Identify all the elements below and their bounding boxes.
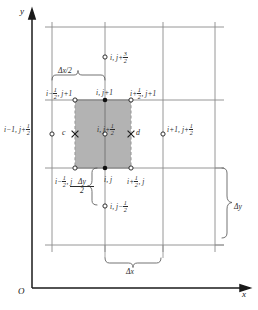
node-label-iplushalf-j-suffix: , j	[138, 177, 144, 186]
brace-dy	[222, 168, 232, 238]
node-label-i-jplushalf: i, j+12	[97, 122, 115, 136]
dimension-dy-half-denominator: 2	[70, 186, 94, 195]
node-marker-i-jplus3half	[103, 55, 107, 59]
fraction-denominator: 2	[53, 93, 57, 100]
y-axis-arrowhead	[29, 9, 35, 19]
fraction-numerator: 1	[26, 123, 30, 129]
fraction-numerator: 1	[134, 175, 138, 181]
node-label-iplus1-jplushalf-prefix: i+1, j+	[167, 125, 189, 134]
fraction-denominator: 2	[26, 129, 30, 136]
point-label-c: c	[62, 129, 66, 137]
node-label-iminushalf-jplus1-prefix: i−	[46, 89, 53, 98]
figure-canvas: y x O i, j+32 i−12, j+1 i, j+1 i+12, j+1…	[0, 0, 258, 310]
fraction-numerator: 3	[123, 51, 127, 57]
node-marker-i-j	[103, 166, 108, 171]
node-label-iplus1-jplushalf-fraction: 12	[189, 123, 193, 137]
node-marker-i-jminushalf	[103, 204, 107, 208]
node-label-iplushalf-jplus1: i+12, j+1	[130, 86, 156, 100]
fraction-numerator: 1	[62, 175, 66, 181]
node-marker-iminushalf-j	[73, 166, 77, 170]
node-label-iplushalf-jplus1-prefix: i+	[130, 89, 137, 98]
dimension-label-dx-half: Δx/2	[58, 66, 72, 75]
node-label-i-jplus3half: i, j+32	[110, 50, 128, 64]
origin-label: O	[18, 286, 25, 296]
node-label-iplushalf-j-prefix: i+	[127, 177, 134, 186]
node-label-iminushalf-j-prefix: i−	[55, 177, 62, 186]
fraction-denominator: 2	[110, 129, 114, 136]
node-marker-iminushalf-jplus1	[73, 98, 77, 102]
node-label-iminus1-jplushalf: i−1, j+12	[4, 122, 30, 136]
x-axis-label: x	[242, 289, 246, 299]
fraction-denominator: 2	[137, 93, 141, 100]
node-label-i-jplushalf-prefix: i, j+	[97, 125, 110, 134]
node-label-iminushalf-jplus1-suffix: , j+1	[57, 89, 72, 98]
node-label-i-jplus1: i, j+1	[96, 89, 113, 96]
fraction-denominator: 2	[123, 206, 127, 213]
fraction-numerator: 1	[123, 200, 127, 206]
node-label-iminus1-jplushalf-fraction: 12	[26, 123, 30, 137]
node-label-iplushalf-jplus1-suffix: , j+1	[141, 89, 156, 98]
y-axis-label: y	[20, 6, 24, 16]
fraction-numerator: 1	[137, 87, 141, 93]
dimension-label-dx: Δx	[126, 267, 134, 276]
node-marker-iplus1-jplushalf	[161, 132, 165, 136]
coordinate-axes	[29, 9, 250, 291]
node-label-iplus1-jplushalf: i+1, j+12	[167, 122, 193, 136]
diagram-svg	[0, 0, 258, 310]
dimension-dy-half-numerator: Δy	[70, 178, 94, 186]
node-label-i-jminushalf: i, j−12	[110, 199, 128, 213]
node-label-iminushalf-jplus1-fraction: 12	[53, 87, 57, 101]
fraction-denominator: 2	[123, 57, 127, 64]
dimension-label-dy: Δy	[234, 202, 242, 211]
fraction-numerator: 1	[110, 123, 114, 129]
point-label-d: d	[136, 129, 140, 137]
node-label-iplushalf-jplus1-fraction: 12	[137, 87, 141, 101]
fraction-numerator: 1	[53, 87, 57, 93]
fraction-denominator: 2	[134, 181, 138, 188]
node-label-iminus1-jplushalf-prefix: i−1, j+	[4, 125, 26, 134]
node-marker-iminus1-jplushalf	[50, 132, 54, 136]
node-marker-iplushalf-j	[129, 166, 133, 170]
node-label-i-jminushalf-fraction: 12	[123, 200, 127, 214]
node-label-i-jplus3half-fraction: 32	[123, 51, 127, 65]
node-label-iminushalf-jplus1: i−12, j+1	[46, 86, 72, 100]
fraction-denominator: 2	[62, 181, 66, 188]
node-label-i-jplus3half-main: i, j+	[110, 53, 123, 62]
node-label-i-jplushalf-fraction: 12	[110, 123, 114, 137]
node-label-i-jminushalf-prefix: i, j−	[110, 202, 123, 211]
fraction-denominator: 2	[189, 129, 193, 136]
fraction-numerator: 1	[189, 123, 193, 129]
node-label-iplushalf-j: i+12, j	[127, 174, 145, 188]
node-label-iminushalf-j-fraction: 12	[62, 175, 66, 189]
node-label-i-j: i, j	[104, 176, 112, 183]
node-marker-i-jplus1	[103, 98, 108, 103]
dimension-label-dy-half: Δy 2	[70, 178, 94, 195]
node-label-iplushalf-j-fraction: 12	[134, 175, 138, 189]
